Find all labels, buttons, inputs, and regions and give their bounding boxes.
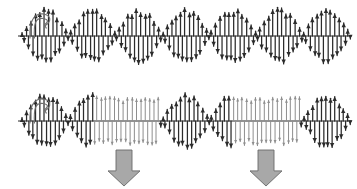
wave-quill xyxy=(325,121,329,147)
quill-arrowhead xyxy=(343,41,347,45)
wave-quill xyxy=(275,7,279,36)
wave-quill xyxy=(269,121,272,143)
quill-arrowhead xyxy=(236,9,240,13)
wave-quill xyxy=(252,121,255,145)
quill-arrowhead xyxy=(267,100,270,103)
quill-arrowhead xyxy=(295,43,299,47)
quill-arrowhead xyxy=(278,138,281,141)
quill-arrowhead xyxy=(214,109,218,113)
quill-arrowhead xyxy=(328,98,332,102)
quill-arrowhead xyxy=(42,7,46,11)
quill-arrowhead xyxy=(88,55,92,59)
wave-quill xyxy=(274,121,277,143)
quill-arrowhead xyxy=(289,97,292,100)
quill-arrowhead xyxy=(165,109,169,113)
wave-quill xyxy=(328,98,332,121)
wave-quill xyxy=(189,36,193,62)
wave-quill xyxy=(189,121,193,148)
wave-quill xyxy=(101,36,105,55)
quill-arrowhead xyxy=(51,10,55,14)
quill-arrowhead xyxy=(324,9,328,13)
wave-quill xyxy=(69,30,73,36)
quill-arrowhead xyxy=(80,54,84,58)
quill-arrowhead xyxy=(299,123,303,127)
quill-arrowhead xyxy=(53,51,57,55)
wave-quill xyxy=(258,98,261,121)
quill-arrowhead xyxy=(211,127,215,131)
quill-arrowhead xyxy=(270,10,274,14)
quill-arrowhead xyxy=(234,140,237,143)
quill-arrowhead xyxy=(346,29,350,33)
wave-quill xyxy=(176,121,180,146)
wave-quill xyxy=(57,36,61,53)
wave-quill xyxy=(225,121,229,146)
quill-arrowhead xyxy=(209,30,213,34)
wave-quill xyxy=(24,111,28,121)
wave-quill xyxy=(178,12,182,36)
quill-arrowhead xyxy=(282,143,285,146)
quill-arrowhead xyxy=(321,59,325,63)
wave-quill xyxy=(245,99,248,121)
wave-quill xyxy=(196,16,200,36)
wave-quill xyxy=(216,121,220,136)
wave-quill xyxy=(260,121,263,143)
quill-arrowhead xyxy=(232,97,235,100)
quill-arrowhead xyxy=(295,139,298,142)
wave-quill xyxy=(124,121,127,142)
wave-quill xyxy=(83,36,87,57)
wave-quill xyxy=(176,36,180,58)
quill-arrowhead xyxy=(39,141,43,145)
quill-arrowhead xyxy=(73,107,77,111)
wave-quill xyxy=(172,36,176,57)
quill-arrowhead xyxy=(134,9,138,13)
wave-quill xyxy=(64,114,68,121)
quill-arrowhead xyxy=(151,142,154,145)
wave-quill xyxy=(59,107,63,121)
quill-arrowhead xyxy=(274,140,277,143)
wave-quill xyxy=(337,18,341,36)
wave-quill xyxy=(322,121,326,147)
wave-quill xyxy=(128,36,132,58)
wave-quill xyxy=(81,12,85,36)
quill-arrowhead xyxy=(129,142,132,145)
wave-quill xyxy=(348,120,352,124)
quill-arrowhead xyxy=(279,8,283,12)
wave-quill xyxy=(62,36,66,46)
wave-quill xyxy=(234,121,237,143)
quill-arrowhead xyxy=(256,143,259,146)
quill-arrowhead xyxy=(294,96,297,99)
wave-quill xyxy=(97,36,101,62)
quill-arrowhead xyxy=(174,102,178,106)
quill-arrowhead xyxy=(215,49,219,53)
wave-quill xyxy=(163,36,167,43)
wave-quill xyxy=(205,114,209,121)
wave-quill xyxy=(93,121,96,144)
wave-quill xyxy=(240,97,243,121)
wave-quill xyxy=(142,121,145,143)
quill-arrowhead xyxy=(187,98,191,102)
quill-arrowhead xyxy=(319,97,323,101)
quill-arrowhead xyxy=(258,98,261,101)
wave-quill xyxy=(341,109,345,121)
wave-quill xyxy=(185,121,189,149)
quill-arrowhead xyxy=(144,98,147,101)
wave-quill xyxy=(304,36,308,44)
wave-quill xyxy=(170,20,174,36)
wave-quill xyxy=(333,97,337,121)
quill-arrowhead xyxy=(57,49,61,53)
quill-arrowhead xyxy=(302,116,306,120)
wave-quill xyxy=(310,106,314,121)
wave-quill xyxy=(288,13,292,36)
quill-arrowhead xyxy=(335,51,339,55)
quill-arrowhead xyxy=(304,39,308,43)
wave-quill xyxy=(167,36,171,50)
quill-arrowhead xyxy=(203,41,207,45)
wave-quill xyxy=(113,97,116,121)
wave-quill xyxy=(130,15,134,36)
quill-arrowhead xyxy=(227,13,231,17)
quill-arrowhead xyxy=(75,133,79,137)
quill-arrowhead xyxy=(55,99,59,103)
quill-arrowhead xyxy=(342,23,346,27)
quill-arrowhead xyxy=(205,114,209,118)
wave-quill xyxy=(256,121,259,146)
